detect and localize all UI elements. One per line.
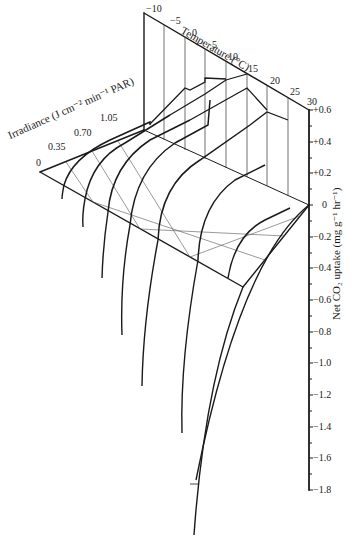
temp-tick-label: −10 bbox=[146, 4, 162, 14]
z-tick-label: −0.4 bbox=[313, 263, 331, 273]
irradiance-tick-label: 1.05 bbox=[100, 113, 118, 123]
z-tick-label: +0.6 bbox=[313, 105, 331, 115]
z-tick-label: −1.0 bbox=[313, 358, 331, 368]
temp-tick-label: −5 bbox=[170, 16, 181, 26]
z-tick-label: −1.8 bbox=[313, 485, 331, 495]
z-tick-label: −1.2 bbox=[313, 390, 331, 400]
z-tick-label: −1.4 bbox=[313, 422, 331, 432]
z-tick-label: −1.6 bbox=[313, 453, 331, 463]
irradiance-tick-label: 0.70 bbox=[74, 128, 92, 138]
z-tick-label: +0.4 bbox=[313, 137, 331, 147]
z-tick-label: −0.8 bbox=[313, 327, 331, 337]
irradiance-tick-label: 0.35 bbox=[48, 142, 66, 152]
z-axis-title: Net CO₂ uptake (mg g⁻¹ hr⁻¹) bbox=[330, 188, 343, 320]
chart-3d-surface bbox=[0, 0, 359, 543]
temp-tick-label: 20 bbox=[270, 76, 280, 86]
z-tick-label: −0.2 bbox=[313, 232, 331, 242]
irradiance-tick-label: 0 bbox=[36, 158, 41, 168]
z-tick-label: +0.2 bbox=[313, 168, 331, 178]
z-tick-label: 0 bbox=[322, 200, 327, 210]
z-tick-label: −0.6 bbox=[313, 295, 331, 305]
temp-tick-label: 25 bbox=[290, 87, 300, 97]
